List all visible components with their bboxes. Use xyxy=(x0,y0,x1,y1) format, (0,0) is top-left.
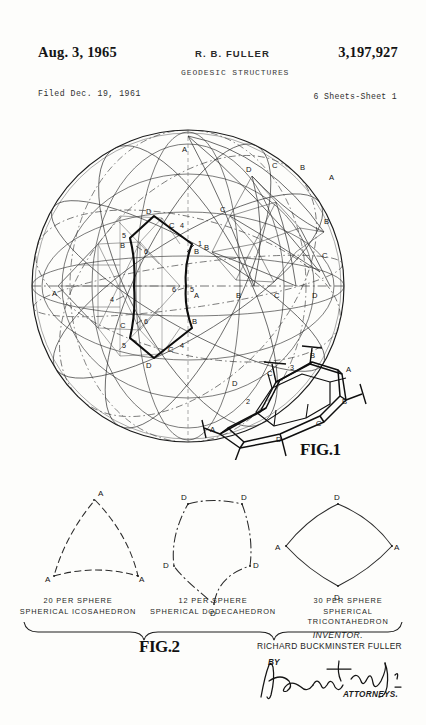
svg-text:B: B xyxy=(192,317,197,326)
svg-text:B: B xyxy=(310,351,315,360)
filing-date: Filed Dec. 19, 1961 xyxy=(38,89,141,98)
patent-title: GEODESIC STRUCTURES xyxy=(181,68,289,77)
svg-text:C: C xyxy=(267,369,273,378)
sheet-count: 6 Sheets-Sheet 1 xyxy=(314,92,397,101)
svg-text:A: A xyxy=(52,289,58,298)
figure-1-sphere-diagram: A D C B A C B B C A B C D A D C B B C D … xyxy=(24,112,402,460)
svg-text:1: 1 xyxy=(198,239,202,248)
svg-text:B: B xyxy=(120,241,125,250)
svg-text:4: 4 xyxy=(180,341,184,350)
svg-text:A: A xyxy=(182,145,188,154)
svg-text:5: 5 xyxy=(122,231,126,240)
svg-text:C: C xyxy=(220,205,226,214)
svg-text:D: D xyxy=(146,207,152,216)
publication-date: Aug. 3, 1965 xyxy=(38,44,117,61)
svg-text:C: C xyxy=(316,419,322,428)
svg-text:A: A xyxy=(194,291,200,300)
caption-count-1: 12 PER SPHERE xyxy=(148,596,278,607)
svg-text:D: D xyxy=(253,561,259,570)
figure-2-label: FIG.2 xyxy=(139,637,179,657)
svg-text:B: B xyxy=(324,217,329,226)
caption-icosahedron: 20 PER SPHERE SPHERICAL ICOSAHEDRON xyxy=(13,596,143,617)
svg-text:D: D xyxy=(334,493,340,502)
svg-text:B: B xyxy=(342,397,347,406)
svg-text:A: A xyxy=(394,543,400,552)
svg-text:5: 5 xyxy=(190,285,194,294)
svg-text:D: D xyxy=(181,493,187,502)
svg-text:D: D xyxy=(312,291,318,300)
shape-triangle xyxy=(54,500,138,576)
svg-text:C: C xyxy=(274,291,280,300)
patent-number: 3,197,927 xyxy=(338,44,398,61)
svg-text:4: 4 xyxy=(180,221,184,230)
svg-text:B: B xyxy=(204,243,209,252)
svg-text:C: C xyxy=(169,221,175,230)
caption-count-0: 20 PER SPHERE xyxy=(13,596,143,607)
svg-text:D: D xyxy=(146,361,152,370)
shape-rhombus xyxy=(286,504,392,586)
svg-text:2: 2 xyxy=(246,397,250,406)
attorneys-label: ATTORNEYS. xyxy=(343,690,398,699)
svg-text:C: C xyxy=(168,345,174,354)
svg-text:4: 4 xyxy=(110,295,114,304)
svg-text:D: D xyxy=(276,435,282,444)
svg-text:6: 6 xyxy=(144,317,148,326)
patent-drawing-sheet: Aug. 3, 1965 R. B. FULLER 3,197,927 GEOD… xyxy=(0,0,426,725)
caption-name-0: SPHERICAL ICOSAHEDRON xyxy=(13,607,143,618)
svg-text:A: A xyxy=(139,575,145,584)
shape-pentagon xyxy=(173,501,251,605)
svg-text:C: C xyxy=(272,161,278,170)
svg-text:D: D xyxy=(241,493,247,502)
svg-text:A: A xyxy=(346,365,352,374)
inventor-label: INVENTOR. xyxy=(313,630,363,640)
svg-text:D: D xyxy=(163,561,169,570)
svg-text:C: C xyxy=(120,321,126,330)
svg-text:B: B xyxy=(236,291,241,300)
svg-text:A: A xyxy=(98,489,104,498)
svg-text:D: D xyxy=(232,379,238,388)
svg-text:B: B xyxy=(194,247,199,256)
svg-text:A: A xyxy=(275,543,281,552)
caption-tricontahedron: 30 PER SPHERE SPHERICAL TRICONTAHEDRON xyxy=(283,596,413,628)
svg-text:5: 5 xyxy=(122,341,126,350)
caption-name-1: SPHERICAL DODECAHEDRON xyxy=(148,607,278,618)
svg-text:A: A xyxy=(45,575,51,584)
inventor-short: R. B. FULLER xyxy=(195,48,270,59)
inventor-name: RICHARD BUCKMINSTER FULLER xyxy=(257,641,402,651)
caption-dodecahedron: 12 PER SPHERE SPHERICAL DODECAHEDRON xyxy=(148,596,278,617)
svg-text:6: 6 xyxy=(144,247,148,256)
figure-1-label: FIG.1 xyxy=(300,440,340,460)
caption-count-2: 30 PER SPHERE xyxy=(283,596,413,607)
svg-text:6: 6 xyxy=(172,285,176,294)
svg-text:C: C xyxy=(322,251,328,260)
svg-text:A: A xyxy=(329,173,335,182)
caption-name-2: SPHERICAL TRICONTAHEDRON xyxy=(283,607,413,628)
svg-text:D: D xyxy=(246,165,252,174)
svg-text:3: 3 xyxy=(290,363,294,372)
svg-text:B: B xyxy=(300,163,305,172)
